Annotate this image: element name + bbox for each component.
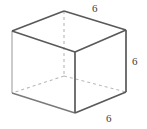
dimension-label-top: 6 bbox=[92, 3, 98, 14]
light-edges-group bbox=[12, 31, 75, 113]
edge-top-front-right bbox=[75, 30, 126, 52]
hidden-edges-group bbox=[12, 11, 126, 93]
dimension-label-bottom: 6 bbox=[106, 113, 112, 124]
cube-figure: 6 6 6 bbox=[0, 0, 147, 129]
hidden-edge-back-bottom-right bbox=[64, 76, 126, 92]
hidden-edge-back-bottom-left bbox=[12, 76, 64, 93]
cube-wireframe bbox=[0, 0, 147, 129]
edge-front-bottom-left bbox=[12, 93, 75, 113]
edge-top-front-left bbox=[12, 31, 75, 52]
edge-front-bottom-right bbox=[75, 92, 126, 113]
edge-top-back-left bbox=[12, 11, 64, 31]
dimension-label-right: 6 bbox=[132, 56, 138, 67]
